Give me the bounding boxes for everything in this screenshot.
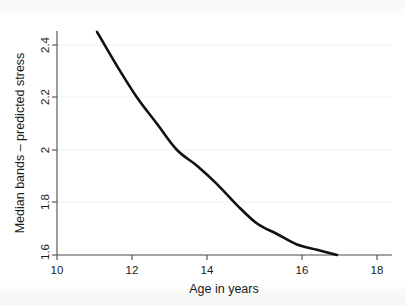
x-tick-label-14: 14 — [201, 264, 214, 276]
x-tick-label-16: 16 — [296, 264, 309, 276]
y-tick-label-1-6: 1.6 — [39, 244, 51, 260]
y-tick-label-2-2: 2.2 — [39, 89, 51, 105]
x-axis-title: Age in years — [189, 282, 258, 296]
y-tick-label-2-4: 2.4 — [39, 36, 51, 53]
y-tick-labels: 2.4 2.2 2 1.8 1.6 — [39, 36, 51, 260]
data-line-median-bands-predicted-stress — [97, 32, 337, 255]
y-axis-title: Median bands – predicted stress — [13, 53, 27, 234]
line-chart-svg: 2.4 2.2 2 1.8 1.6 10 12 14 16 18 Age in … — [0, 0, 405, 305]
y-axis-ticks — [52, 45, 57, 255]
x-tick-labels: 10 12 14 16 18 — [51, 264, 384, 276]
gridlines — [57, 45, 392, 202]
x-tick-label-18: 18 — [371, 264, 384, 276]
x-tick-label-10: 10 — [51, 264, 64, 276]
x-axis-ticks — [57, 255, 377, 260]
y-tick-label-2-0: 2 — [39, 147, 51, 153]
chart-figure: 2.4 2.2 2 1.8 1.6 10 12 14 16 18 Age in … — [0, 0, 405, 305]
y-tick-label-1-8: 1.8 — [39, 194, 51, 210]
x-tick-label-12: 12 — [126, 264, 139, 276]
